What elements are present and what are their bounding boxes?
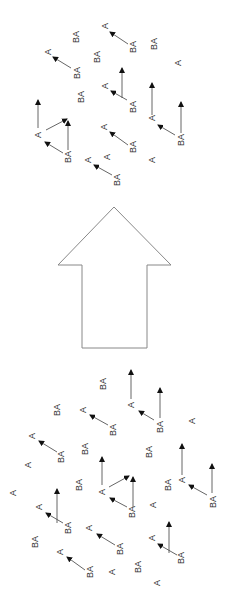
bottom-label-ba: BA [144, 446, 154, 458]
bottom-label-a: A [107, 569, 117, 575]
bottom-label-ba: BA [74, 479, 84, 491]
bottom-label-a: A [147, 535, 157, 541]
bottom-arrow-icon [67, 557, 85, 570]
bottom-arrow-icon [39, 441, 57, 452]
bottom-label-ba: BA [108, 424, 118, 436]
bottom-label-a: A [187, 418, 197, 424]
top-arrow-icon [110, 132, 128, 145]
bottom-label-ba: BA [208, 496, 218, 508]
top-label-ba: BA [76, 91, 86, 103]
top-label-a: A [100, 23, 110, 29]
top-label-a: A [83, 157, 93, 163]
top-label-a: A [173, 60, 183, 66]
diagram-canvas: BAABABAABABAAABABAABAABAABAAAABA BAABAAB… [0, 0, 231, 596]
bottom-label-a: A [23, 462, 33, 468]
top-label-a: A [147, 157, 157, 163]
bottom-arrow-icon [90, 415, 108, 425]
bottom-label-ba: BA [80, 443, 90, 455]
top-label-ba: BA [63, 151, 73, 163]
top-label-ba: BA [128, 141, 138, 153]
bottom-arrow-icon [189, 485, 207, 495]
top-arrow-icon [46, 119, 67, 130]
bottom-label-ba: BA [98, 378, 108, 390]
top-arrow-icon [110, 32, 128, 44]
top-cluster: BAABABAABABAAABABAABAABAABAAAABA [33, 23, 186, 186]
bottom-label-ba: BA [176, 552, 186, 564]
bottom-label-ba: BA [63, 522, 73, 534]
bottom-arrow-icon [139, 411, 154, 420]
bottom-label-a: A [27, 433, 37, 439]
top-label-ba: BA [128, 41, 138, 53]
bottom-label-a: A [97, 489, 107, 495]
bottom-label-a: A [84, 525, 94, 531]
bottom-label-a: A [55, 549, 65, 555]
bottom-label-a: A [126, 402, 136, 408]
top-label-a: A [99, 124, 109, 130]
bottom-label-a: A [78, 407, 88, 413]
top-arrow-icon [53, 57, 71, 68]
big-up-arrow-icon [58, 207, 171, 348]
top-arrow-icon [45, 142, 63, 153]
top-arrow-icon [158, 125, 175, 135]
bottom-label-a: A [8, 490, 18, 496]
bottom-arrow-icon [97, 534, 115, 545]
bottom-label-ba: BA [127, 506, 137, 518]
top-label-ba: BA [149, 38, 159, 50]
bottom-arrow-icon [46, 513, 63, 523]
top-label-a: A [33, 132, 43, 138]
bottom-label-ba: BA [52, 404, 62, 416]
bottom-label-a: A [177, 477, 187, 483]
top-label-ba: BA [176, 134, 186, 146]
top-arrow-icon [94, 165, 112, 175]
bottom-label-ba: BA [30, 536, 40, 548]
bottom-label-ba: BA [56, 451, 66, 463]
bottom-label-ba: BA [155, 421, 165, 433]
bottom-label-ba: BA [133, 561, 143, 573]
top-label-a: A [147, 115, 157, 121]
bottom-arrow-icon [109, 476, 129, 487]
bottom-label-a: A [152, 580, 162, 586]
bottom-arrow-icon [110, 498, 127, 507]
top-label-ba: BA [92, 51, 102, 63]
top-label-ba: BA [112, 174, 122, 186]
top-label-a: A [102, 154, 112, 160]
bottom-label-ba: BA [115, 543, 125, 555]
bottom-cluster: BAABAABAABAABABABAAABABABAABAAAABAABABAA… [8, 370, 218, 586]
top-arrow-icon [111, 91, 127, 100]
bottom-arrow-icon [158, 544, 177, 555]
bottom-label-a: A [148, 502, 158, 508]
top-label-a: A [43, 49, 53, 55]
bottom-label-a: A [34, 504, 44, 510]
top-label-a: A [100, 83, 110, 89]
bottom-label-ba: BA [85, 566, 95, 578]
top-label-ba: BA [72, 67, 82, 79]
top-label-ba: BA [128, 101, 138, 113]
bottom-label-ba: BA [163, 479, 173, 491]
top-label-ba: BA [71, 31, 81, 43]
